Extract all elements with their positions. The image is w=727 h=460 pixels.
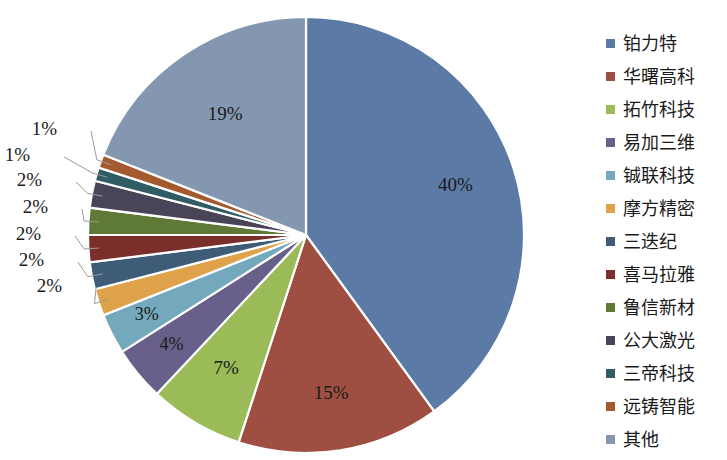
pie-value-label: 15%	[314, 382, 349, 403]
legend-item-label: 鲁信新材	[623, 299, 695, 317]
legend-item[interactable]: 三帝科技	[590, 357, 727, 390]
legend-item[interactable]: 摩方精密	[590, 192, 727, 225]
pie-value-label: 2%	[19, 249, 45, 270]
pie-value-label: 40%	[438, 174, 473, 195]
legend-color-swatch	[606, 270, 615, 279]
legend-item[interactable]: 远铸智能	[590, 390, 727, 423]
pie-value-label: 2%	[23, 196, 49, 217]
legend-item-label: 远铸智能	[623, 398, 695, 416]
legend-item-label: 三帝科技	[623, 365, 695, 383]
legend-item[interactable]: 公大激光	[590, 324, 727, 357]
legend-item[interactable]: 鲁信新材	[590, 291, 727, 324]
legend-item[interactable]: 喜马拉雅	[590, 258, 727, 291]
pie-value-label: 2%	[17, 169, 43, 190]
legend-color-swatch	[606, 171, 615, 180]
pie-value-label: 2%	[16, 223, 42, 244]
legend-color-swatch	[606, 237, 615, 246]
pie-value-label: 2%	[37, 275, 63, 296]
pie-chart-canvas: 40%15%7%4%3%19%2%2%2%2%2%1%1%	[0, 0, 590, 460]
legend-item-label: 易加三维	[623, 134, 695, 152]
legend-color-swatch	[606, 72, 615, 81]
pie-value-label: 7%	[213, 357, 239, 378]
legend-item[interactable]: 拓竹科技	[590, 93, 727, 126]
legend-color-swatch	[606, 105, 615, 114]
legend-item[interactable]: 其他	[590, 423, 727, 456]
legend-item[interactable]: 易加三维	[590, 126, 727, 159]
legend-color-swatch	[606, 402, 615, 411]
legend-item-label: 拓竹科技	[623, 101, 695, 119]
pie-value-label: 3%	[135, 304, 159, 324]
legend-item-label: 喜马拉雅	[623, 266, 695, 284]
legend-item-label: 摩方精密	[623, 200, 695, 218]
legend-color-swatch	[606, 138, 615, 147]
legend-item[interactable]: 铖联科技	[590, 159, 727, 192]
legend-color-swatch	[606, 336, 615, 345]
legend-color-swatch	[606, 204, 615, 213]
legend-item-label: 其他	[623, 431, 659, 449]
pie-value-label: 1%	[5, 144, 31, 165]
legend-color-swatch	[606, 369, 615, 378]
legend-item[interactable]: 华曙高科	[590, 60, 727, 93]
legend-item-label: 华曙高科	[623, 68, 695, 86]
pie-value-label: 1%	[32, 118, 58, 139]
chart-legend: 铂力特华曙高科拓竹科技易加三维铖联科技摩方精密三迭纪喜马拉雅鲁信新材公大激光三帝…	[590, 0, 727, 460]
legend-item-label: 公大激光	[623, 332, 695, 350]
legend-item-label: 铖联科技	[623, 167, 695, 185]
pie-chart-figure: 40%15%7%4%3%19%2%2%2%2%2%1%1% 铂力特华曙高科拓竹科…	[0, 0, 727, 460]
legend-color-swatch	[606, 435, 615, 444]
legend-item-label: 铂力特	[623, 35, 677, 53]
legend-item[interactable]: 三迭纪	[590, 225, 727, 258]
legend-item-label: 三迭纪	[623, 233, 677, 251]
pie-value-label: 19%	[208, 103, 243, 124]
legend-item[interactable]: 铂力特	[590, 27, 727, 60]
pie-value-label: 4%	[160, 334, 184, 354]
legend-color-swatch	[606, 39, 615, 48]
pie-slices-group	[88, 17, 524, 453]
legend-color-swatch	[606, 303, 615, 312]
